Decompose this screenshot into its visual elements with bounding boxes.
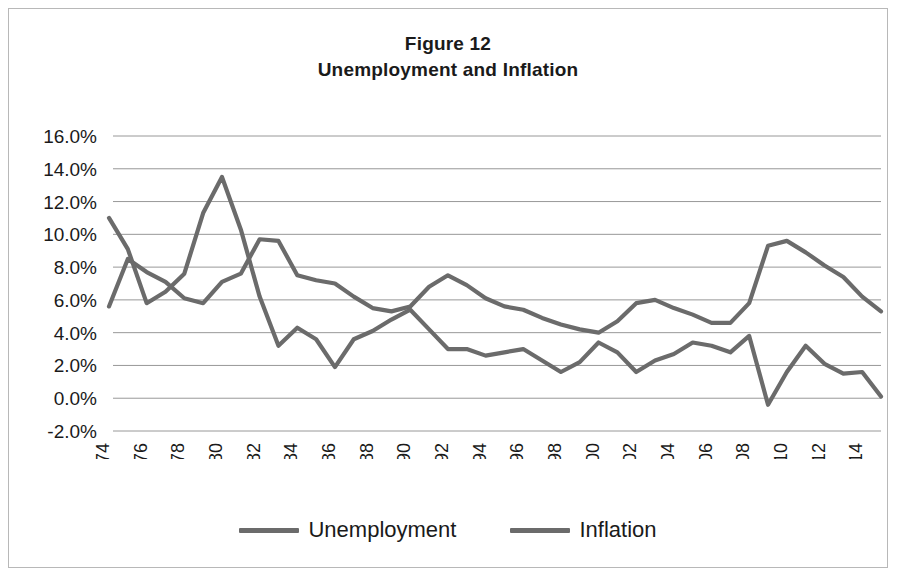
- x-axis-tick-label: 1990: [394, 443, 414, 459]
- x-axis-tick-label: 1976: [131, 443, 151, 459]
- x-axis-tick-label: 2010: [771, 443, 791, 459]
- x-axis-tick-label: 1984: [281, 443, 301, 459]
- x-axis-tick-label: 2002: [620, 443, 640, 459]
- chart-legend: UnemploymentInflation: [9, 517, 887, 543]
- line-chart-svg: 16.0%14.0%12.0%10.0%8.0%6.0%4.0%2.0%0.0%…: [9, 109, 889, 459]
- legend-label: Inflation: [579, 517, 656, 543]
- x-axis-tick-label: 1974: [93, 443, 113, 459]
- series-line-unemployment: [109, 239, 881, 332]
- legend-item-inflation[interactable]: Inflation: [510, 517, 656, 543]
- legend-item-unemployment[interactable]: Unemployment: [239, 517, 456, 543]
- x-axis-tick-label: 2006: [696, 443, 716, 459]
- y-axis-tick-label: 0.0%: [54, 388, 97, 409]
- x-axis-tick-label: 2014: [846, 443, 866, 459]
- x-axis-tick-label: 1988: [357, 443, 377, 459]
- y-axis-tick-label: 2.0%: [54, 355, 97, 376]
- y-axis-tick-labels: 16.0%14.0%12.0%10.0%8.0%6.0%4.0%2.0%0.0%…: [43, 126, 97, 442]
- y-axis-tick-label: 16.0%: [43, 126, 97, 147]
- x-axis-tick-label: 1978: [168, 443, 188, 459]
- gridlines: [113, 136, 881, 431]
- legend-swatch-icon: [239, 528, 299, 533]
- x-axis-tick-label: 2004: [658, 443, 678, 459]
- chart-title-line-1: Figure 12: [9, 31, 887, 57]
- x-axis-tick-label: 1982: [244, 443, 264, 459]
- chart-frame: Figure 12 Unemployment and Inflation 16.…: [8, 8, 888, 568]
- y-axis-tick-label: 8.0%: [54, 257, 97, 278]
- y-axis-tick-label: -2.0%: [47, 421, 97, 442]
- legend-label: Unemployment: [308, 517, 456, 543]
- x-axis-tick-label: 1996: [507, 443, 527, 459]
- x-axis-tick-label: 1980: [206, 443, 226, 459]
- data-series-group: [109, 177, 881, 405]
- x-axis-tick-label: 2012: [809, 443, 829, 459]
- y-axis-tick-label: 12.0%: [43, 192, 97, 213]
- x-axis-tick-labels: 1974197619781980198219841986198819901992…: [93, 443, 866, 459]
- x-axis-tick-label: 1994: [470, 443, 490, 459]
- plot-area: 16.0%14.0%12.0%10.0%8.0%6.0%4.0%2.0%0.0%…: [9, 109, 889, 459]
- x-axis-tick-label: 1998: [545, 443, 565, 459]
- legend-swatch-icon: [510, 528, 570, 533]
- chart-title-line-2: Unemployment and Inflation: [9, 57, 887, 83]
- x-axis-tick-label: 1986: [319, 443, 339, 459]
- y-axis-tick-label: 6.0%: [54, 290, 97, 311]
- y-axis-tick-label: 4.0%: [54, 323, 97, 344]
- y-axis-tick-label: 14.0%: [43, 159, 97, 180]
- x-axis-tick-label: 2008: [733, 443, 753, 459]
- y-axis-tick-label: 10.0%: [43, 224, 97, 245]
- chart-title: Figure 12 Unemployment and Inflation: [9, 31, 887, 83]
- x-axis-tick-label: 2000: [583, 443, 603, 459]
- series-line-inflation: [109, 177, 881, 405]
- x-axis-tick-label: 1992: [432, 443, 452, 459]
